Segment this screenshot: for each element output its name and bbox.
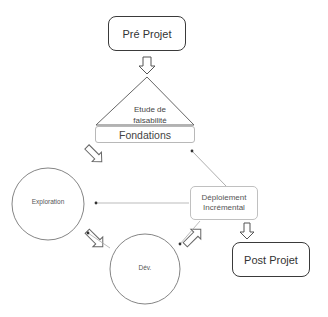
exploration-label: Exploration <box>18 198 78 205</box>
arrow-fondations-to-exploration <box>82 142 106 166</box>
deploiement-label-line1: Déploiement <box>202 193 247 203</box>
arrow-dev-to-deploiement <box>180 224 205 249</box>
post-projet-label: Post Projet <box>244 254 298 266</box>
etude-label-line1: Etude de <box>120 104 180 115</box>
arrow-pre-to-etude <box>139 57 155 74</box>
fondations-box: Fondations <box>95 126 195 143</box>
line-deploiement-to-fondations <box>192 151 226 186</box>
dev-label: Dév. <box>115 264 175 271</box>
etude-label: Etude de faisabilité <box>120 104 180 126</box>
arrow-exploration-to-dev <box>82 226 107 251</box>
deploiement-label-line2: Incrémental <box>202 203 247 213</box>
fondations-label: Fondations <box>119 129 171 141</box>
post-projet-box: Post Projet <box>232 242 310 277</box>
pre-projet-label: Pré Projet <box>123 28 172 40</box>
deploiement-box: Déploiement Incrémental <box>190 186 258 220</box>
arrow-deploiement-to-post <box>240 223 254 239</box>
pre-projet-box: Pré Projet <box>108 16 186 51</box>
etude-label-line2: faisabilité <box>120 115 180 126</box>
